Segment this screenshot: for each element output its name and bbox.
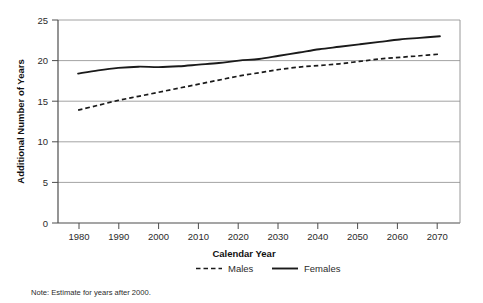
- x-axis-title: Calendar Year: [212, 248, 276, 259]
- x-tick-label-2070: 2070: [427, 231, 448, 242]
- legend-label-males: Males: [228, 263, 254, 274]
- x-tick-label-2030: 2030: [267, 231, 288, 242]
- legend-label-females: Females: [304, 263, 341, 274]
- y-axis-title: Additional Number of Years: [15, 59, 26, 183]
- x-tick-label-1980: 1980: [68, 231, 89, 242]
- chart-figure: 25 20 15 10 5 0 1980 1990 2000 2010 20: [0, 0, 483, 303]
- y-tick-label-10: 10: [37, 136, 48, 147]
- y-tick-label-5: 5: [43, 177, 48, 188]
- x-tick-label-2010: 2010: [188, 231, 209, 242]
- x-tick-label-2050: 2050: [347, 231, 368, 242]
- y-tick-label-0: 0: [43, 218, 48, 229]
- y-tick-label-15: 15: [37, 96, 48, 107]
- x-tick-label-2020: 2020: [228, 231, 249, 242]
- line-chart-svg: 25 20 15 10 5 0 1980 1990 2000 2010 20: [0, 0, 483, 303]
- x-tick-label-2000: 2000: [148, 231, 169, 242]
- x-tick-label-2040: 2040: [307, 231, 328, 242]
- y-tick-label-20: 20: [37, 55, 48, 66]
- x-tick-label-2060: 2060: [387, 231, 408, 242]
- x-tick-label-1990: 1990: [108, 231, 129, 242]
- y-tick-label-25: 25: [37, 15, 48, 26]
- chart-note: Note: Estimate for years after 2000.: [31, 288, 151, 297]
